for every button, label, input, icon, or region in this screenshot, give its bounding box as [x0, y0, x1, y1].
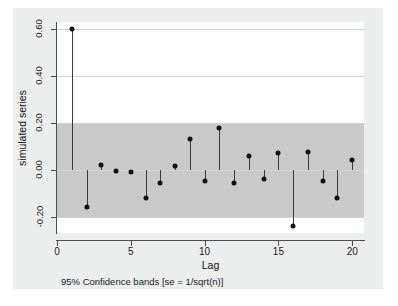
y-axis-tick: [51, 76, 56, 77]
data-point[interactable]: [276, 151, 281, 156]
confidence-band-note: 95% Confidence bands [se = 1/sqrt(n)]: [61, 276, 223, 287]
gridline: [57, 123, 364, 124]
data-point[interactable]: [99, 163, 104, 168]
data-point[interactable]: [320, 179, 325, 184]
x-axis-tick-label: 20: [347, 246, 358, 257]
gridline: [57, 217, 364, 218]
gridline: [57, 76, 364, 77]
chart-figure: simulated series -0.200.000.200.400.60 0…: [13, 8, 383, 289]
x-axis-label: Lag: [57, 259, 364, 271]
plot-area: [57, 22, 364, 233]
y-axis-line: [56, 22, 57, 234]
data-point[interactable]: [143, 195, 148, 200]
data-point[interactable]: [232, 180, 237, 185]
y-axis-label: simulated series: [15, 8, 29, 247]
data-point[interactable]: [305, 150, 310, 155]
y-axis-tick-label: 0.60: [33, 19, 44, 38]
x-axis-tick-label: 10: [199, 246, 210, 257]
data-point[interactable]: [217, 125, 222, 130]
stem-line: [337, 170, 338, 198]
stem-line: [219, 128, 220, 170]
x-axis-tick-label: 15: [273, 246, 284, 257]
data-point[interactable]: [84, 205, 89, 210]
y-axis-tick: [51, 170, 56, 171]
y-axis-tick-label: 0.20: [33, 113, 44, 132]
data-point[interactable]: [173, 164, 178, 169]
stem-line: [293, 170, 294, 226]
data-point[interactable]: [335, 195, 340, 200]
data-point[interactable]: [202, 179, 207, 184]
y-axis-tick: [51, 29, 56, 30]
data-point[interactable]: [114, 168, 119, 173]
data-point[interactable]: [187, 137, 192, 142]
stem-line: [146, 170, 147, 198]
data-point[interactable]: [261, 177, 266, 182]
gridline: [57, 170, 364, 171]
y-axis-tick-label: 0.40: [33, 66, 44, 85]
x-axis-tick-label: 0: [54, 246, 60, 257]
stem-line: [87, 170, 88, 208]
y-axis-tick: [51, 217, 56, 218]
y-axis-label-text: simulated series: [16, 90, 28, 166]
y-axis-tick: [51, 123, 56, 124]
x-axis-line: [56, 240, 365, 241]
stem-line: [308, 152, 309, 170]
data-point[interactable]: [69, 27, 74, 32]
y-axis-tick-label: -0.20: [34, 205, 45, 227]
y-axis-tick-label: 0.00: [33, 160, 44, 179]
stem-line: [72, 29, 73, 170]
data-point[interactable]: [350, 158, 355, 163]
data-point[interactable]: [291, 223, 296, 228]
data-point[interactable]: [158, 180, 163, 185]
stem-line: [190, 139, 191, 169]
data-point[interactable]: [246, 153, 251, 158]
gridline: [57, 29, 364, 30]
x-axis-tick-label: 5: [128, 246, 134, 257]
data-point[interactable]: [128, 170, 133, 175]
